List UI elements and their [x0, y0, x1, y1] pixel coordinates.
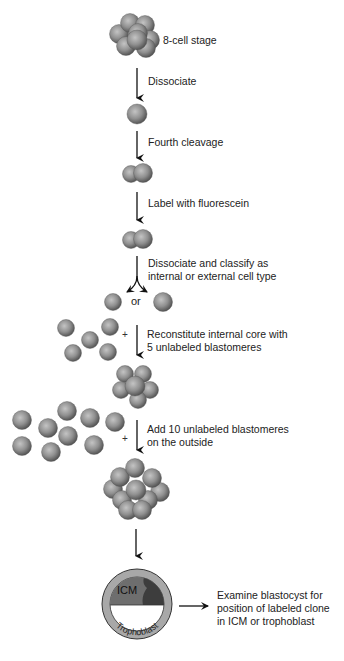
label-add-outside-line1: Add 10 unlabeled blastomeres [147, 423, 289, 436]
eight-cell-embryo-icon [110, 14, 160, 58]
label-classify-line1: Dissociate and classify as [148, 257, 268, 270]
icm-label: ICM [117, 584, 137, 597]
label-dissociate: Dissociate [148, 75, 196, 88]
reconstituted-core-icon [113, 366, 159, 409]
five-blastomeres-icon [58, 319, 119, 362]
labeled-two-cell-icon [123, 230, 153, 249]
label-8-cell-stage: 8-cell stage [163, 34, 217, 47]
or-label: or [131, 295, 141, 307]
ten-blastomeres-icon [13, 402, 125, 462]
label-classify-line2: internal or external cell type [148, 270, 276, 283]
morula-icon [104, 459, 170, 520]
plus-sign-reconstitute: + [122, 329, 128, 340]
single-blastomere-icon [127, 104, 147, 124]
label-reconstitute-line1: Reconstitute internal core with [147, 328, 288, 341]
external-cell-icon [154, 293, 173, 312]
blastocyst-icon [102, 569, 172, 639]
label-examine-line2: position of labeled clone [217, 602, 330, 615]
label-add-outside-line2: on the outside [147, 436, 213, 449]
label-examine-line3: in ICM or trophoblast [217, 615, 314, 628]
label-reconstitute-line2: 5 unlabeled blastomeres [147, 341, 261, 354]
label-fourth-cleavage: Fourth cleavage [148, 136, 223, 149]
internal-cell-icon [105, 294, 122, 311]
label-fluorescein: Label with fluorescein [148, 197, 249, 210]
label-examine-line1: Examine blastocyst for [217, 589, 323, 602]
split-arrows [127, 256, 147, 292]
two-cell-icon [123, 164, 153, 183]
plus-sign-add-outside: + [122, 433, 128, 444]
